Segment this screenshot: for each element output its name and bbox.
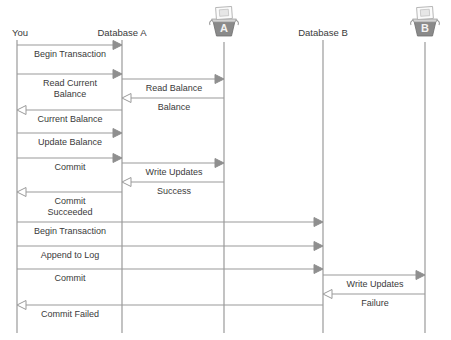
message-label-10: Commit xyxy=(55,196,86,206)
arrowhead-open xyxy=(323,290,332,299)
arrowhead-filled xyxy=(113,154,122,163)
message-label-8: Write Updates xyxy=(146,167,203,177)
message-label-12: Append to Log xyxy=(41,250,100,260)
message-label-4: Balance xyxy=(158,102,191,112)
arrowhead-open xyxy=(122,178,131,187)
icon-handle xyxy=(236,20,239,25)
database-bucket-icon-server-a: A xyxy=(210,6,239,36)
arrowhead-open xyxy=(17,106,26,115)
icon-letter-server-b: B xyxy=(421,22,429,34)
message-label-11: Begin Transaction xyxy=(34,226,106,236)
lifeline-label-database-b: Database B xyxy=(298,27,348,38)
message-label-16: Commit Failed xyxy=(41,309,99,319)
icon-handle xyxy=(437,20,440,25)
database-bucket-icon-server-b: B xyxy=(411,6,440,36)
icon-document-inner xyxy=(219,9,228,16)
message-label-13: Commit xyxy=(55,273,86,283)
icon-handle xyxy=(210,20,213,25)
icon-document-inner xyxy=(420,9,429,16)
message-label-6: Update Balance xyxy=(38,137,102,147)
message-label-1: Begin Transaction xyxy=(34,49,106,59)
message-label-15: Failure xyxy=(361,298,389,308)
arrowhead-filled xyxy=(215,75,224,84)
arrowhead-open xyxy=(17,188,26,197)
arrowhead-filled xyxy=(113,129,122,138)
lifeline-label-database-a: Database A xyxy=(97,27,147,38)
arrowhead-filled xyxy=(113,41,122,50)
message-label-2: Balance xyxy=(54,89,87,99)
message-label-14: Write Updates xyxy=(347,279,404,289)
arrowhead-filled xyxy=(314,242,323,251)
icon-handle xyxy=(411,20,414,25)
arrowhead-filled xyxy=(416,271,425,280)
message-label-5: Current Balance xyxy=(37,114,102,124)
arrowhead-open xyxy=(17,301,26,310)
message-label-7: Commit xyxy=(55,162,86,172)
message-label-3: Read Balance xyxy=(146,83,203,93)
icon-letter-server-a: A xyxy=(220,22,228,34)
message-label-10: Succeeded xyxy=(47,207,92,217)
arrowhead-filled xyxy=(314,218,323,227)
lifeline-label-you: You xyxy=(12,27,28,38)
message-label-2: Read Current xyxy=(43,78,98,88)
arrowhead-open xyxy=(122,94,131,103)
message-label-9: Success xyxy=(157,186,192,196)
arrowhead-filled xyxy=(314,265,323,274)
arrowhead-filled xyxy=(113,70,122,79)
sequence-diagram-canvas: AB YouDatabase ADatabase BBegin Transact… xyxy=(0,0,451,340)
sequence-diagram-svg: AB YouDatabase ADatabase BBegin Transact… xyxy=(0,0,451,340)
arrowhead-filled xyxy=(215,159,224,168)
